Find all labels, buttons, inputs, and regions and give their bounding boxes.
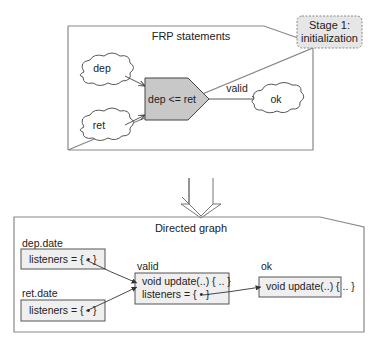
- cloud-ok-label: ok: [270, 93, 282, 105]
- node-ret-date: ret.date listeners = { • }: [21, 287, 105, 321]
- node-ret-date-name: ret.date: [22, 287, 58, 299]
- node-valid-update: void update(..) { .. }: [142, 275, 231, 287]
- stage-label: Stage 1: initialization: [297, 16, 362, 48]
- edge-ret-date-to-valid: [86, 287, 137, 311]
- node-dep-date-listeners: listeners = { • }: [29, 253, 97, 265]
- cloud-ret-label: ret: [93, 119, 105, 131]
- node-ret-date-listeners: listeners = { • }: [29, 304, 97, 316]
- edge-dep-date-to-valid: [86, 260, 137, 283]
- node-ok-update: void update(..) { .. }: [266, 280, 355, 292]
- frp-panel-title: FRP statements: [152, 30, 231, 42]
- node-valid-listeners: listeners = { • }: [142, 288, 210, 300]
- node-ok: ok void update(..) { .. }: [259, 260, 355, 297]
- transition-arrow-icon: [181, 178, 221, 218]
- stage-label-line2: initialization: [301, 32, 358, 44]
- cloud-ok: ok: [252, 83, 304, 113]
- node-dep-date: dep.date listeners = { • }: [21, 237, 105, 269]
- cloud-dep: dep: [80, 53, 133, 86]
- stage-label-line1: Stage 1:: [309, 19, 350, 31]
- node-valid: valid void update(..) { .. } listeners =…: [135, 260, 231, 304]
- node-ok-name: ok: [261, 260, 273, 272]
- edge-valid-label: valid: [226, 82, 248, 94]
- edge-dep-to-operator: [125, 76, 145, 86]
- node-valid-name: valid: [137, 260, 159, 272]
- graph-panel-title: Directed graph: [155, 222, 227, 234]
- cloud-dep-label: dep: [93, 62, 111, 74]
- node-dep-date-name: dep.date: [22, 237, 63, 249]
- operator-label: dep <= ret: [148, 93, 196, 105]
- operator-node: dep <= ret: [145, 78, 209, 120]
- diagram-canvas: FRP statements Stage 1: initialization d…: [0, 0, 384, 346]
